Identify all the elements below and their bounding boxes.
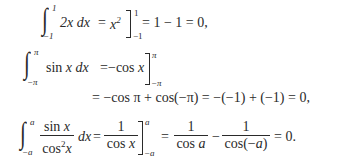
eval-lower-limit: −π — [151, 78, 162, 88]
continuation-line: = −cos π + cos(−π) = −(−1) + (−1) = 0, — [92, 90, 310, 106]
evaluation-bracket — [145, 53, 150, 85]
eval-upper-limit: a — [145, 117, 150, 127]
eval-upper-limit: π — [152, 50, 157, 60]
integral-lower-limit: −1 — [43, 31, 54, 41]
dx: dx — [78, 129, 91, 145]
integral-upper-limit: a — [30, 117, 35, 127]
eval-lower-limit: −a — [144, 148, 155, 158]
eval-lower-limit: −1 — [133, 31, 143, 41]
integral-sign: ∫ — [42, 4, 48, 34]
eval-upper-limit: 1 — [134, 8, 139, 18]
integral-lower-limit: −π — [27, 77, 38, 87]
result: = 1 − 1 = 0, — [142, 15, 208, 31]
evaluation-bracket — [126, 10, 131, 38]
term1-fraction: 1 cos a — [174, 119, 208, 152]
integral-sign: ∫ — [24, 48, 30, 78]
result: = 0. — [274, 129, 296, 145]
integrand: 2x dx — [60, 15, 90, 31]
integrand-fraction: sin x cos2x — [40, 119, 74, 157]
integral-sign: ∫ — [20, 118, 26, 148]
antiderivative: x2 — [110, 15, 121, 33]
integral-upper-limit: 1 — [52, 3, 57, 13]
equals-sign: = — [93, 129, 101, 145]
integral-lower-limit: −a — [22, 147, 33, 157]
equals-sign: = — [98, 15, 106, 31]
equals-sign-2: = — [161, 129, 169, 145]
minus-sign: − — [212, 129, 220, 145]
evaluation-bracket — [138, 121, 143, 155]
term2-fraction: 1 cos(−a) — [222, 119, 270, 152]
antiderivative-fraction: 1 cos x — [104, 119, 138, 152]
equals-sign: = — [100, 60, 108, 76]
antiderivative: −cos x — [108, 60, 144, 76]
integral-upper-limit: π — [34, 47, 39, 57]
integrand: sin x dx — [46, 60, 89, 76]
